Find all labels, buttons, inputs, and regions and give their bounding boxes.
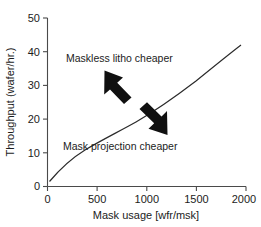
x-tick-label-0: 0 bbox=[44, 193, 50, 205]
y-tick-label-0: 0 bbox=[34, 180, 40, 192]
x-tick-label-2000: 2000 bbox=[232, 193, 256, 205]
y-tick-label-20: 20 bbox=[28, 113, 40, 125]
y-tick-label-10: 10 bbox=[28, 147, 40, 159]
x-axis-title: Mask usage [wfr/msk] bbox=[93, 209, 199, 221]
upper-region-label: Maskless litho cheaper bbox=[66, 52, 173, 64]
x-tick-label-1500: 1500 bbox=[184, 193, 208, 205]
y-tick-label-50: 50 bbox=[28, 12, 40, 24]
x-tick-label-1000: 1000 bbox=[135, 193, 159, 205]
lower-region-label: Mask projection cheaper bbox=[63, 140, 178, 152]
y-axis-title: Throughput (wafer/hr.) bbox=[4, 48, 16, 157]
x-tick-label-500: 500 bbox=[88, 193, 106, 205]
y-tick-label-30: 30 bbox=[28, 79, 40, 91]
chart-canvas: 0 10 20 30 40 50 0 500 1000 1500 2000 Ma… bbox=[0, 0, 261, 227]
chart-figure: 0 10 20 30 40 50 0 500 1000 1500 2000 Ma… bbox=[0, 0, 261, 227]
y-tick-label-40: 40 bbox=[28, 46, 40, 58]
